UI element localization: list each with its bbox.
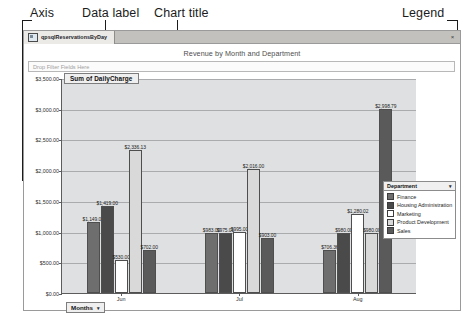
legend-swatch: [387, 202, 394, 209]
y-axis-tick-label: $1,500.00: [35, 199, 59, 205]
legend-item-list: FinanceHousing AdministrationMarketingPr…: [384, 191, 455, 238]
annotation-data-label: Data label: [82, 6, 139, 20]
bar-data-label: $1,419.00: [97, 201, 118, 206]
bar-group: $983.00$975.01$995.00$2,016.00$903.00Jul: [180, 79, 298, 293]
plot-area: $0.00$500.00$1,000.00$1,500.00$2,000.00$…: [61, 79, 416, 294]
legend: Department ▾ FinanceHousing Administrati…: [383, 181, 456, 239]
annotation-chart-title: Chart title: [154, 6, 209, 20]
months-field-label: Months: [71, 304, 93, 311]
legend-item[interactable]: Sales: [387, 227, 452, 234]
bar[interactable]: $975.01: [219, 233, 232, 293]
x-axis-tick-mark: [121, 293, 122, 296]
close-icon[interactable]: ×: [449, 34, 456, 41]
bar[interactable]: $1,149.00: [87, 222, 100, 293]
months-field-button[interactable]: Months ▾: [66, 302, 105, 313]
y-axis-tick-label: $1,000.00: [35, 230, 59, 236]
bar-data-label: $980.00: [335, 228, 352, 233]
bar[interactable]: $980.00: [365, 233, 378, 293]
pivot-chart-icon: [28, 33, 38, 42]
bar[interactable]: $530.00: [115, 260, 128, 293]
y-axis-tick-label: $3,500.00: [35, 76, 59, 82]
bar[interactable]: $903.00: [261, 238, 274, 293]
legend-item[interactable]: Housing Administration: [387, 202, 452, 209]
bar-data-label: $2,016.00: [243, 164, 264, 169]
document-tab-label: qpsqlReservationsByDay: [41, 34, 107, 40]
chevron-down-icon[interactable]: ▾: [97, 305, 100, 311]
legend-swatch: [387, 219, 394, 226]
document-tab[interactable]: qpsqlReservationsByDay: [24, 31, 115, 44]
legend-item-label: Marketing: [397, 211, 421, 217]
bar-group: $1,149.00$1,419.00$530.00$2,336.13$702.0…: [62, 79, 180, 293]
series-field-button[interactable]: Sum of DailyCharge: [64, 73, 139, 84]
x-axis-tick-mark: [358, 293, 359, 296]
legend-swatch: [387, 227, 394, 234]
filter-drop-zone[interactable]: Drop Filter Fields Here: [28, 61, 455, 72]
chevron-down-icon[interactable]: ▾: [449, 183, 452, 189]
chart-title: Revenue by Month and Department: [24, 49, 460, 58]
legend-item-label: Sales: [397, 228, 411, 234]
annotation-axis: Axis: [30, 6, 54, 20]
x-axis-tick-label: Aug: [353, 296, 363, 302]
x-axis-tick-label: Jul: [236, 296, 243, 302]
bar-data-label: $530.00: [112, 255, 129, 260]
legend-item-label: Finance: [397, 194, 416, 200]
y-axis-tick-label: $3,000.00: [35, 107, 59, 113]
bar-data-label: $995.00: [231, 227, 248, 232]
y-axis-tick-label: $2,500.00: [35, 137, 59, 143]
bar-data-label: $2,998.79: [375, 104, 396, 109]
bar[interactable]: $2,336.13: [129, 150, 142, 294]
x-axis-tick-mark: [239, 293, 240, 296]
y-axis-tick-mark: [59, 294, 62, 295]
legend-title: Department: [387, 183, 417, 189]
bar[interactable]: $1,419.00: [101, 206, 114, 293]
bar-data-label: $706.36: [321, 245, 338, 250]
bar[interactable]: $706.36: [323, 250, 336, 293]
bar-series-container: $1,149.00$1,419.00$530.00$2,336.13$702.0…: [62, 79, 416, 293]
bar[interactable]: $995.00: [233, 232, 246, 293]
y-axis-tick-label: $2,000.00: [35, 168, 59, 174]
x-axis-tick-label: Jun: [117, 296, 126, 302]
bar[interactable]: $983.00: [205, 233, 218, 293]
legend-item[interactable]: Marketing: [387, 210, 452, 217]
window-title-bar: qpsqlReservationsByDay ×: [24, 31, 460, 44]
bar[interactable]: $2,016.00: [247, 169, 260, 293]
legend-swatch: [387, 210, 394, 217]
legend-item[interactable]: Product Development: [387, 219, 452, 226]
leader-axis-horizontal: [22, 20, 32, 21]
legend-header[interactable]: Department ▾: [384, 182, 455, 191]
y-axis-tick-label: $500.00: [40, 260, 59, 266]
legend-item[interactable]: Finance: [387, 193, 452, 200]
y-axis-tick-label: $0.00: [46, 291, 59, 297]
legend-item-label: Housing Administration: [397, 202, 452, 208]
application-window: qpsqlReservationsByDay × Revenue by Mont…: [23, 30, 461, 311]
bar-data-label: $702.00: [140, 245, 157, 250]
legend-swatch: [387, 193, 394, 200]
annotation-legend: Legend: [402, 6, 444, 20]
chart-workspace: Revenue by Month and Department Drop Fil…: [24, 45, 460, 310]
bar-data-label: $980.00: [363, 228, 380, 233]
legend-item-label: Product Development: [397, 219, 449, 225]
leader-legend-top: [447, 20, 457, 21]
bar-data-label: $2,336.13: [125, 145, 146, 150]
filter-placeholder-label: Drop Filter Fields Here: [29, 64, 89, 70]
bar-data-label: $903.00: [259, 233, 276, 238]
bar[interactable]: $1,280.02: [351, 214, 364, 293]
bar[interactable]: $702.00: [143, 250, 156, 293]
bar[interactable]: $980.00: [337, 233, 350, 293]
bar-data-label: $1,280.02: [347, 209, 368, 214]
